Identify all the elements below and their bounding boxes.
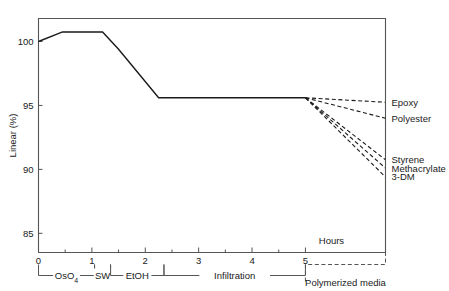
x-axis-tick-label: 1 — [89, 255, 94, 266]
plot-frame — [39, 19, 386, 253]
hours-axis-annotation: Hours — [319, 235, 345, 246]
y-axis-tick-label: 100 — [18, 36, 34, 47]
branch-line-3-dm — [305, 98, 385, 177]
x-axis-tick-label: 3 — [196, 255, 201, 266]
series-label-epoxy: Epoxy — [392, 97, 419, 108]
x-axis-tick-label: 5 — [303, 255, 308, 266]
main-series-line — [39, 32, 306, 98]
y-axis-title: Linear (%) — [7, 114, 18, 158]
x-axis-tick-label: 0 — [36, 255, 41, 266]
region-label-sw: SW — [95, 270, 110, 281]
region-label-etoh: EtOH — [126, 270, 149, 281]
region-label-polymerized-media: Polymerized media — [305, 277, 386, 288]
linear-shrinkage-chart: 859095100012345Linear (%)EpoxyPolyesterS… — [0, 0, 449, 291]
y-axis-tick-label: 85 — [23, 228, 34, 239]
y-axis-tick-label: 95 — [23, 100, 34, 111]
branch-line-styrene — [305, 98, 385, 160]
region-bracket-polymerized-media — [305, 19, 385, 282]
branch-line-epoxy — [305, 98, 385, 102]
chart-figure: 859095100012345Linear (%)EpoxyPolyesterS… — [0, 0, 449, 291]
region-label-infiltration: Infiltration — [214, 270, 255, 281]
x-axis-tick-label: 4 — [249, 255, 254, 266]
y-axis-tick-label: 90 — [23, 164, 34, 175]
series-label-3-dm: 3-DM — [392, 171, 415, 182]
series-label-polyester: Polyester — [392, 113, 432, 124]
x-axis-tick-label: 2 — [143, 255, 148, 266]
